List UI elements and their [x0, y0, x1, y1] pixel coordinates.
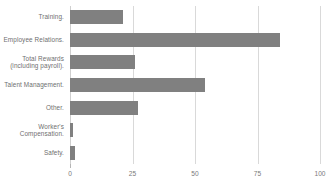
category-label: Talent Management.: [0, 81, 64, 89]
gridline-100: [320, 6, 321, 164]
category-label: Training.: [0, 13, 64, 21]
category-label: Employee Relations.: [0, 36, 64, 44]
bar: [70, 78, 205, 92]
bar-row: [70, 10, 123, 24]
bar-row: [70, 78, 205, 92]
bar-row: [70, 55, 135, 69]
bar: [70, 33, 280, 47]
bar: [70, 55, 135, 69]
bar: [70, 101, 138, 115]
bar-row: [70, 33, 280, 47]
category-axis-labels: Training.Employee Relations.Total Reward…: [0, 6, 66, 164]
bar-chart: Training.Employee Relations.Total Reward…: [0, 0, 332, 185]
category-label: Total Rewards (including payroll).: [0, 55, 64, 70]
x-tick-label-50: 50: [191, 170, 198, 178]
category-label: Safety.: [0, 149, 64, 157]
plot-area: [70, 6, 320, 164]
x-tick-label-100: 100: [314, 170, 325, 178]
x-tick-label-0: 0: [68, 170, 72, 178]
x-tick-mark-0: [70, 164, 71, 168]
bar: [70, 123, 73, 137]
x-tick-label-25: 25: [129, 170, 136, 178]
gridline-75: [258, 6, 259, 164]
bar-row: [70, 146, 75, 160]
bar: [70, 146, 75, 160]
category-label: Worker's Compensation.: [0, 123, 64, 138]
x-axis: 0255075100: [70, 164, 320, 184]
bar-row: [70, 101, 138, 115]
category-label: Other.: [0, 104, 64, 112]
x-tick-label-75: 75: [254, 170, 261, 178]
bar-row: [70, 123, 73, 137]
bar: [70, 10, 123, 24]
